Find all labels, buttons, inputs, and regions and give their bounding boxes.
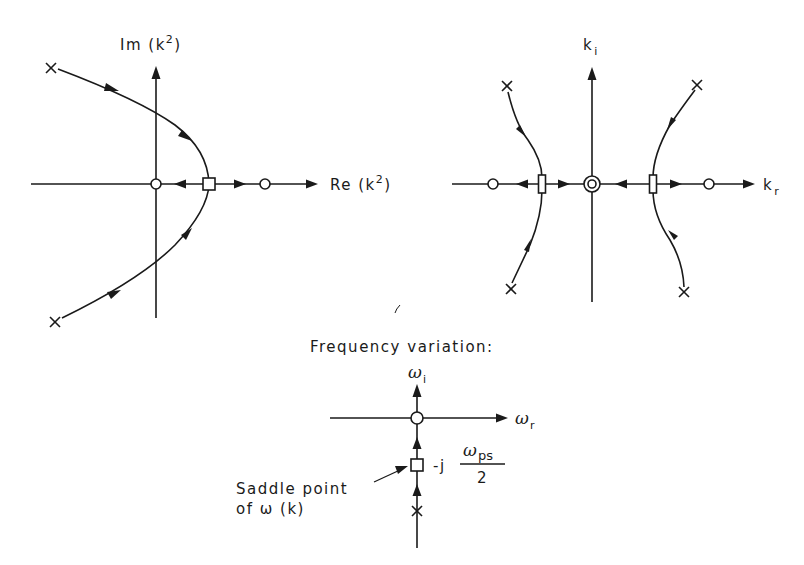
right-real-axis-label: kr bbox=[763, 176, 780, 198]
right-right-lower-branch bbox=[653, 190, 684, 287]
bottom-diagram-frequency-plane: Frequency variation: ωi ωr -j ωps 2 Sadd… bbox=[236, 338, 535, 548]
saddle-value-denominator: 2 bbox=[477, 469, 488, 487]
saddle-annotation-arrowhead-icon bbox=[395, 466, 408, 474]
right-zero-left-icon bbox=[488, 179, 498, 189]
right-imag-axis-label: ki bbox=[583, 36, 599, 58]
left-upper-branch bbox=[58, 69, 209, 184]
right-axis-flow-3-icon bbox=[615, 180, 627, 189]
right-double-zero-inner-icon bbox=[588, 180, 596, 188]
saddle-annotation-line2: of ω (k) bbox=[236, 500, 305, 518]
left-axis-flow-left-icon bbox=[174, 180, 186, 189]
bottom-zero-origin-icon bbox=[411, 412, 423, 424]
left-imag-axis-label: Im (k2) bbox=[120, 33, 182, 54]
right-axis-flow-2-icon bbox=[558, 180, 570, 189]
left-upper-flow-arrow-1-icon bbox=[104, 83, 119, 91]
left-imag-axis-arrowhead-icon bbox=[152, 66, 161, 79]
saddle-value-numerator: ωps bbox=[463, 440, 493, 463]
right-right-upper-branch bbox=[653, 90, 695, 178]
left-real-axis-arrowhead-icon bbox=[306, 180, 318, 189]
right-pole-upper-right-icon bbox=[692, 80, 702, 90]
saddle-annotation-line1: Saddle point bbox=[236, 480, 348, 498]
right-pole-lower-right-icon bbox=[679, 287, 689, 297]
left-saddle-square-icon bbox=[203, 178, 215, 190]
bottom-real-axis-label: ωr bbox=[515, 408, 535, 432]
right-diagram-k-plane: ki kr bbox=[452, 36, 780, 302]
left-lower-flow-arrow-2-icon bbox=[181, 228, 192, 240]
right-flow-arrow-2-icon bbox=[524, 239, 531, 252]
right-flow-arrow-1-icon bbox=[516, 125, 526, 137]
left-real-axis-label: Re (k2) bbox=[330, 173, 392, 194]
bottom-flow-arrow-lower-icon bbox=[413, 484, 422, 496]
saddle-annotation-leader bbox=[374, 470, 400, 482]
right-pole-upper-left-icon bbox=[502, 81, 512, 91]
bottom-saddle-square-icon bbox=[411, 459, 423, 471]
left-upper-flow-arrow-2-icon bbox=[178, 130, 192, 141]
left-zero-origin-icon bbox=[151, 179, 161, 189]
frequency-variation-heading: Frequency variation: bbox=[310, 338, 494, 356]
right-pole-lower-left-icon bbox=[506, 284, 516, 294]
left-zero-right-icon bbox=[260, 179, 270, 189]
left-lower-flow-arrow-1-icon bbox=[107, 290, 121, 299]
figure-canvas: Im (k2) Re (k2) bbox=[0, 0, 804, 565]
right-real-axis-arrowhead-icon bbox=[743, 180, 755, 189]
right-left-lower-branch bbox=[512, 190, 542, 283]
bottom-real-axis-arrowhead-icon bbox=[496, 414, 508, 423]
stray-mark bbox=[395, 305, 400, 313]
bottom-imag-axis-label: ωi bbox=[408, 362, 426, 386]
saddle-value-prefix: -j bbox=[433, 457, 446, 475]
left-axis-flow-right-icon bbox=[234, 180, 246, 189]
left-lower-branch bbox=[62, 184, 209, 318]
left-pole-upper-icon bbox=[46, 63, 56, 73]
left-pole-lower-icon bbox=[50, 317, 60, 327]
right-imag-axis-arrowhead-icon bbox=[588, 67, 597, 80]
left-diagram-k2-plane: Im (k2) Re (k2) bbox=[31, 33, 392, 327]
right-zero-right-icon bbox=[704, 179, 714, 189]
bottom-flow-arrow-upper-icon bbox=[413, 437, 422, 449]
right-saddle-left-icon bbox=[539, 175, 546, 193]
bottom-imag-axis-arrowhead-icon bbox=[413, 384, 422, 397]
right-axis-flow-1-icon bbox=[516, 180, 528, 189]
right-axis-flow-4-icon bbox=[670, 180, 682, 189]
right-saddle-right-icon bbox=[650, 175, 657, 193]
